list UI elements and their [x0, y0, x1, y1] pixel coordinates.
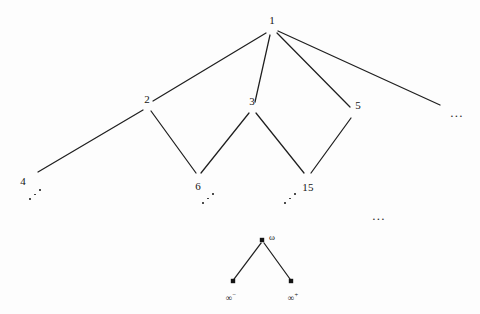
omega-node-dot-inf_minus: [231, 279, 235, 283]
node-label-n2: 2: [144, 94, 150, 105]
top-right-ellipsis: ...: [450, 106, 463, 119]
graph-canvas: [0, 0, 480, 314]
omega-edge-omega-to-inf_plus: [264, 243, 290, 279]
edge-2-to-6: [151, 111, 196, 173]
diagonal-ellipsis-below-15: [284, 192, 298, 206]
omega-component-edges: [234, 243, 290, 279]
omega-node-label-inf_plus: ∞+: [288, 289, 298, 304]
tree-diagram-figure: 12354615 ω∞−∞+ ......: [0, 0, 480, 314]
omega-edge-omega-to-inf_minus: [234, 243, 261, 279]
edge-3-to-6: [201, 113, 249, 173]
edge-1-to-3: [255, 35, 270, 102]
omega-component-node-dots: [231, 238, 293, 283]
node-label-n15: 15: [302, 182, 313, 193]
omega-node-dot-omega: [260, 238, 264, 242]
edge-1-to-2: [153, 33, 266, 101]
upper-tree-edges: [38, 31, 440, 173]
node-label-n3: 3: [249, 96, 255, 107]
diagonal-ellipsis-below-6: [202, 192, 216, 206]
edge-2-to-4: [38, 110, 143, 172]
edge-5-to-15: [311, 118, 351, 173]
edge-3-to-15: [256, 113, 304, 173]
omega-node-label-omega: ω: [269, 232, 275, 243]
node-label-n6: 6: [195, 181, 201, 192]
mid-gap-ellipsis: ...: [372, 209, 385, 222]
diagonal-ellipsis-below-4: [29, 188, 43, 202]
node-label-n1: 1: [269, 15, 275, 26]
omega-node-dot-inf_plus: [289, 279, 293, 283]
omega-node-label-inf_minus: ∞−: [226, 289, 236, 304]
edge-1-to-dots: [278, 31, 440, 105]
node-label-n4: 4: [20, 176, 26, 187]
node-label-n5: 5: [355, 100, 361, 111]
edge-1-to-5: [277, 33, 350, 107]
